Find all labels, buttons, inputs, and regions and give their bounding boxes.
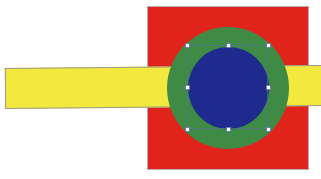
resize-handle-top-left[interactable] [185, 43, 190, 48]
resize-handle-middle-right[interactable] [266, 85, 271, 90]
resize-handle-middle-left[interactable] [185, 85, 190, 90]
drawing-canvas[interactable] [0, 0, 321, 179]
resize-handle-top-right[interactable] [266, 43, 271, 48]
resize-handle-bottom-left[interactable] [185, 127, 190, 132]
resize-handle-top-center[interactable] [226, 43, 231, 48]
resize-handle-bottom-right[interactable] [266, 127, 271, 132]
resize-handle-bottom-center[interactable] [226, 127, 231, 132]
selection-bounding-box [187, 45, 268, 129]
